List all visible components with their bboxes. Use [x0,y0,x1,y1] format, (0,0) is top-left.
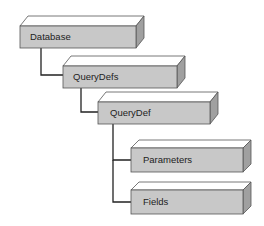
object-hierarchy-diagram: Database QueryDefs QueryDef Parameters F… [0,0,264,226]
edge-querydefs-querydef [81,87,98,112]
edge-querydef-parameters [113,124,131,160]
node-fields-label: Fields [143,196,168,207]
node-database-label: Database [30,31,71,42]
edge-querydef-fields [113,160,131,202]
edge-database-querydefs [41,46,63,75]
node-parameters-label: Parameters [143,154,192,165]
node-querydef-label: QueryDef [110,107,151,118]
node-querydefs-label: QueryDefs [73,71,118,82]
